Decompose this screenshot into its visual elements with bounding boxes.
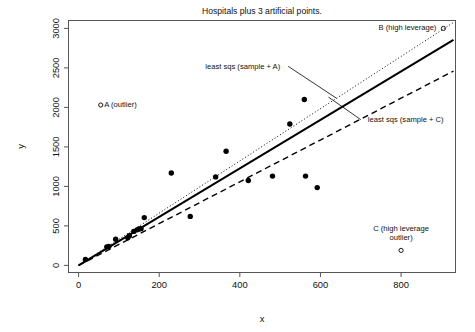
y-tick-label: 2000 <box>50 97 61 118</box>
plot-canvas: Hospitals plus 3 artificial points. 0200… <box>0 0 475 332</box>
data-point <box>287 121 292 126</box>
data-point <box>83 257 88 262</box>
annotation-point-a: A (outlier) <box>104 100 137 109</box>
annotation-fit-c-label: least sqs (sample + C) <box>368 115 444 124</box>
data-point <box>213 174 218 179</box>
data-point <box>303 173 308 178</box>
scatter-plot-figure: Hospitals plus 3 artificial points. 0200… <box>0 0 475 332</box>
data-point <box>138 226 143 231</box>
data-point <box>113 237 118 242</box>
artificial-point <box>99 103 103 107</box>
x-tick-label: 200 <box>151 279 167 290</box>
x-tick-label: 600 <box>313 279 329 290</box>
data-point <box>169 170 174 175</box>
y-tick-label: 3000 <box>50 18 61 39</box>
data-point <box>142 215 147 220</box>
y-tick-label: 1500 <box>50 136 61 157</box>
data-point <box>315 185 320 190</box>
data-point <box>106 244 111 249</box>
artificial-point <box>399 248 403 252</box>
y-tick-label: 0 <box>50 263 61 268</box>
data-point <box>302 97 307 102</box>
y-axis-title: y <box>15 144 26 149</box>
y-tick-label: 1000 <box>50 176 61 197</box>
x-tick-label: 400 <box>232 279 248 290</box>
annotation-point-b: B (high leverage) <box>379 23 437 32</box>
y-tick-label: 500 <box>50 218 61 234</box>
data-point <box>223 149 228 154</box>
annotation-point-c-line1: C (high leverage <box>373 224 429 233</box>
y-tick-label: 2500 <box>50 57 61 78</box>
artificial-point <box>441 26 445 30</box>
data-point <box>246 178 251 183</box>
x-axis-title: x <box>260 313 265 324</box>
annotation-point-c-line2: outlier) <box>389 233 413 242</box>
data-point <box>270 173 275 178</box>
x-tick-label: 800 <box>393 279 409 290</box>
data-point <box>127 233 132 238</box>
chart-title: Hospitals plus 3 artificial points. <box>202 6 322 16</box>
annotation-fit-c-leader <box>329 97 361 120</box>
annotation-fit-a-leader <box>288 66 336 98</box>
annotation-fit-a-label: least sqs (sample + A) <box>205 62 280 71</box>
x-tick-label: 0 <box>76 279 81 290</box>
data-point <box>188 214 193 219</box>
